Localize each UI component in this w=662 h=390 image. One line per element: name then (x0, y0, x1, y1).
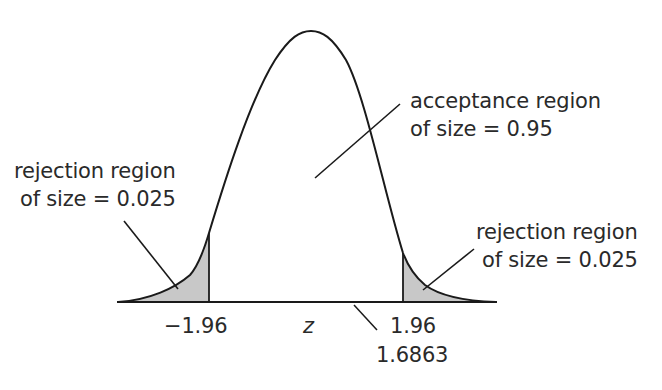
left-rejection-pointer (124, 221, 178, 289)
acceptance-region-pointer (315, 104, 400, 178)
test-statistic-pointer (354, 305, 377, 330)
right-rejection-pointer (423, 249, 474, 290)
acceptance-region-label-line2: of size = 0.95 (410, 116, 553, 142)
left-rejection-label-line2: of size = 0.025 (20, 186, 176, 212)
right-critical-value-label: 1.96 (390, 313, 436, 339)
right-rejection-label-line1: rejection region (476, 219, 638, 245)
test-statistic-label: 1.6863 (376, 342, 448, 368)
left-critical-value-label: −1.96 (164, 313, 227, 339)
z-axis-label: z (303, 313, 314, 339)
right-rejection-label-line2: of size = 0.025 (482, 247, 638, 273)
left-rejection-label-line1: rejection region (14, 158, 176, 184)
acceptance-region-label-line1: acceptance region (410, 88, 601, 114)
